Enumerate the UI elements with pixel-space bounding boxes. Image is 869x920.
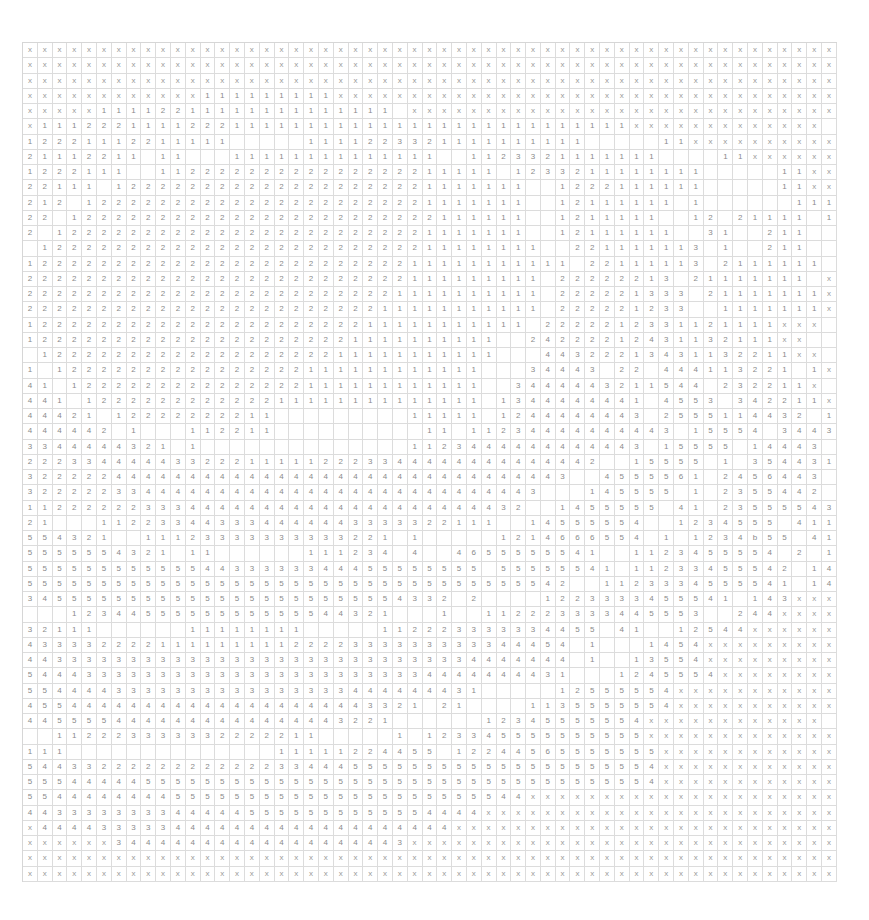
number-cell[interactable]: 4 bbox=[378, 470, 393, 485]
number-cell[interactable]: 4 bbox=[97, 440, 112, 455]
number-cell[interactable]: 2 bbox=[304, 348, 319, 363]
number-cell[interactable]: 4 bbox=[452, 668, 467, 683]
number-cell[interactable]: 4 bbox=[112, 470, 127, 485]
number-cell[interactable]: 2 bbox=[201, 333, 216, 348]
unrevealed-cell[interactable]: x bbox=[541, 836, 556, 851]
number-cell[interactable]: 2 bbox=[319, 287, 334, 302]
number-cell[interactable]: 2 bbox=[615, 348, 630, 363]
empty-cell[interactable] bbox=[733, 196, 748, 211]
unrevealed-cell[interactable]: x bbox=[53, 74, 68, 89]
number-cell[interactable]: 4 bbox=[215, 699, 230, 714]
number-cell[interactable]: 5 bbox=[748, 577, 763, 592]
number-cell[interactable]: 4 bbox=[215, 836, 230, 851]
number-cell[interactable]: 2 bbox=[156, 241, 171, 256]
unrevealed-cell[interactable]: x bbox=[215, 43, 230, 58]
empty-cell[interactable] bbox=[275, 424, 290, 439]
number-cell[interactable]: 2 bbox=[556, 592, 571, 607]
unrevealed-cell[interactable]: x bbox=[245, 43, 260, 58]
number-cell[interactable]: 2 bbox=[38, 333, 53, 348]
number-cell[interactable]: 4 bbox=[585, 409, 600, 424]
unrevealed-cell[interactable]: x bbox=[556, 806, 571, 821]
number-cell[interactable]: 3 bbox=[82, 806, 97, 821]
unrevealed-cell[interactable]: x bbox=[526, 821, 541, 836]
number-cell[interactable]: 5 bbox=[467, 760, 482, 775]
number-cell[interactable]: 2 bbox=[260, 241, 275, 256]
empty-cell[interactable] bbox=[334, 729, 349, 744]
empty-cell[interactable] bbox=[23, 729, 38, 744]
unrevealed-cell[interactable]: x bbox=[482, 806, 497, 821]
number-cell[interactable]: 2 bbox=[171, 302, 186, 317]
number-cell[interactable]: 1 bbox=[778, 241, 793, 256]
number-cell[interactable]: 2 bbox=[334, 241, 349, 256]
number-cell[interactable]: 2 bbox=[82, 348, 97, 363]
unrevealed-cell[interactable]: x bbox=[289, 58, 304, 73]
unrevealed-cell[interactable]: x bbox=[585, 821, 600, 836]
number-cell[interactable]: 2 bbox=[718, 485, 733, 500]
number-cell[interactable]: 5 bbox=[378, 592, 393, 607]
unrevealed-cell[interactable]: x bbox=[585, 867, 600, 882]
number-cell[interactable]: 2 bbox=[556, 287, 571, 302]
number-cell[interactable]: 4 bbox=[304, 470, 319, 485]
unrevealed-cell[interactable]: x bbox=[585, 806, 600, 821]
number-cell[interactable]: 2 bbox=[349, 745, 364, 760]
unrevealed-cell[interactable]: x bbox=[689, 119, 704, 134]
number-cell[interactable]: 2 bbox=[171, 226, 186, 241]
number-cell[interactable]: 4 bbox=[408, 821, 423, 836]
number-cell[interactable]: 1 bbox=[630, 180, 645, 195]
number-cell[interactable]: 2 bbox=[763, 394, 778, 409]
number-cell[interactable]: 4 bbox=[482, 470, 497, 485]
number-cell[interactable]: 5 bbox=[497, 729, 512, 744]
number-cell[interactable]: 2 bbox=[260, 180, 275, 195]
unrevealed-cell[interactable]: x bbox=[600, 58, 615, 73]
number-cell[interactable]: 4 bbox=[23, 409, 38, 424]
number-cell[interactable]: 2 bbox=[38, 135, 53, 150]
unrevealed-cell[interactable]: x bbox=[807, 638, 822, 653]
number-cell[interactable]: 4 bbox=[260, 485, 275, 500]
unrevealed-cell[interactable]: x bbox=[822, 668, 837, 683]
unrevealed-cell[interactable]: x bbox=[497, 43, 512, 58]
number-cell[interactable]: 2 bbox=[141, 211, 156, 226]
number-cell[interactable]: 1 bbox=[319, 394, 334, 409]
number-cell[interactable]: 2 bbox=[792, 409, 807, 424]
number-cell[interactable]: 4 bbox=[112, 546, 127, 561]
number-cell[interactable]: 3 bbox=[230, 684, 245, 699]
number-cell[interactable]: 4 bbox=[334, 836, 349, 851]
number-cell[interactable]: 2 bbox=[541, 607, 556, 622]
number-cell[interactable]: 1 bbox=[423, 272, 438, 287]
number-cell[interactable]: 5 bbox=[201, 592, 216, 607]
number-cell[interactable]: 4 bbox=[363, 836, 378, 851]
number-cell[interactable]: 2 bbox=[97, 638, 112, 653]
unrevealed-cell[interactable]: x bbox=[659, 867, 674, 882]
number-cell[interactable]: 2 bbox=[201, 165, 216, 180]
empty-cell[interactable] bbox=[497, 684, 512, 699]
number-cell[interactable]: 4 bbox=[526, 455, 541, 470]
number-cell[interactable]: 2 bbox=[349, 196, 364, 211]
unrevealed-cell[interactable]: x bbox=[763, 790, 778, 805]
number-cell[interactable]: 5 bbox=[171, 775, 186, 790]
unrevealed-cell[interactable]: x bbox=[319, 43, 334, 58]
number-cell[interactable]: 2 bbox=[53, 257, 68, 272]
number-cell[interactable]: 5 bbox=[452, 775, 467, 790]
number-cell[interactable]: 1 bbox=[467, 348, 482, 363]
number-cell[interactable]: 2 bbox=[600, 302, 615, 317]
empty-cell[interactable] bbox=[437, 150, 452, 165]
number-cell[interactable]: 2 bbox=[97, 760, 112, 775]
number-cell[interactable]: 2 bbox=[97, 257, 112, 272]
number-cell[interactable]: 1 bbox=[304, 729, 319, 744]
number-cell[interactable]: 3 bbox=[733, 394, 748, 409]
number-cell[interactable]: 3 bbox=[97, 653, 112, 668]
unrevealed-cell[interactable]: x bbox=[526, 867, 541, 882]
number-cell[interactable]: 5 bbox=[482, 760, 497, 775]
number-cell[interactable]: 5 bbox=[186, 562, 201, 577]
number-cell[interactable]: 5 bbox=[304, 806, 319, 821]
number-cell[interactable]: 4 bbox=[304, 699, 319, 714]
number-cell[interactable]: 1 bbox=[201, 89, 216, 104]
empty-cell[interactable] bbox=[615, 455, 630, 470]
unrevealed-cell[interactable]: x bbox=[334, 74, 349, 89]
number-cell[interactable]: 2 bbox=[245, 394, 260, 409]
number-cell[interactable]: 1 bbox=[467, 333, 482, 348]
number-cell[interactable]: 1 bbox=[556, 501, 571, 516]
number-cell[interactable]: 2 bbox=[156, 272, 171, 287]
number-cell[interactable]: 2 bbox=[644, 302, 659, 317]
unrevealed-cell[interactable]: x bbox=[600, 806, 615, 821]
